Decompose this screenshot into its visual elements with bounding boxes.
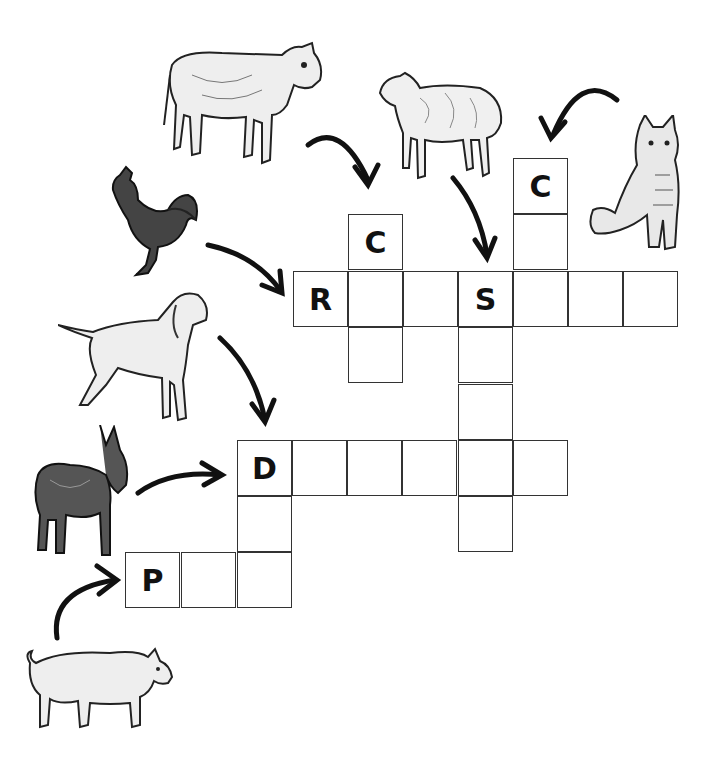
dog-illustration <box>58 290 213 425</box>
sheep-illustration <box>375 68 510 183</box>
arrow-sheep-to-s <box>445 170 505 265</box>
crossword-cell[interactable] <box>513 271 568 327</box>
crossword-cell[interactable] <box>348 327 403 383</box>
crossword-cell-clue-c[interactable]: C <box>348 214 403 270</box>
crossword-cell[interactable] <box>458 496 513 552</box>
crossword-cell[interactable] <box>513 214 568 270</box>
crossword-cell[interactable] <box>237 552 292 608</box>
arrow-dog-to-d <box>210 330 280 430</box>
crossword-cell[interactable] <box>458 440 513 496</box>
crossword-cell[interactable] <box>402 440 457 496</box>
crossword-cell[interactable] <box>237 496 292 552</box>
rooster-illustration <box>108 165 203 280</box>
arrow-pig-to-p <box>45 560 125 645</box>
pig-icon <box>20 645 175 730</box>
crossword-cell-clue-p[interactable]: P <box>125 552 180 608</box>
arrow-rooster-to-r <box>200 235 290 300</box>
sheep-icon <box>375 68 510 183</box>
crossword-cell[interactable] <box>458 384 513 440</box>
crossword-cell[interactable] <box>347 440 402 496</box>
arrow-cat-to-c <box>535 80 625 145</box>
crossword-cell-clue-r[interactable]: R <box>293 271 348 327</box>
rooster-icon <box>108 165 203 280</box>
crossword-cell[interactable] <box>513 440 568 496</box>
crossword-cell[interactable] <box>403 271 458 327</box>
crossword-cell[interactable] <box>348 271 403 327</box>
crossword-cell[interactable] <box>181 552 236 608</box>
arrow-cow-to-c <box>300 125 390 195</box>
crossword-cell-clue-d[interactable]: D <box>237 440 292 496</box>
pig-illustration <box>20 645 175 730</box>
crossword-puzzle: CCRSDP <box>0 0 718 771</box>
crossword-cell[interactable] <box>458 327 513 383</box>
crossword-cell-clue-s[interactable]: S <box>458 271 513 327</box>
crossword-cell[interactable] <box>623 271 678 327</box>
donkey-icon <box>30 425 135 560</box>
arrow-donkey-to-d <box>130 455 230 500</box>
crossword-cell[interactable] <box>568 271 623 327</box>
crossword-cell[interactable] <box>292 440 347 496</box>
donkey-illustration <box>30 425 135 560</box>
dog-icon <box>58 290 213 425</box>
crossword-cell-clue-c[interactable]: C <box>513 158 568 214</box>
